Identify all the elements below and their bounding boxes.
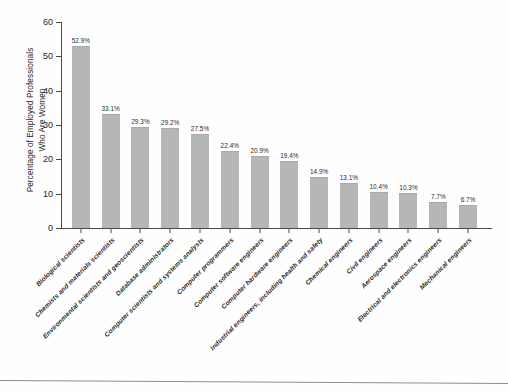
x-tick-mark (378, 228, 379, 233)
bar-slot: 10.3%Aerospace engineers (394, 22, 424, 228)
bar[interactable] (191, 134, 209, 228)
bar-slot: 22.4%Computer programmers (215, 22, 245, 228)
x-category-label: Biological scientists (34, 236, 86, 288)
bar[interactable] (131, 127, 149, 228)
y-tick-label: 60 (43, 17, 53, 27)
bar[interactable] (72, 46, 90, 228)
bar-slot: 6.7%Mechanical engineers (453, 22, 483, 228)
x-tick-mark (438, 228, 439, 233)
bar[interactable] (161, 128, 179, 228)
bar-value-label: 7.7% (431, 193, 446, 200)
bar-slot: 27.5%Computer scientists and systems ana… (185, 22, 215, 228)
x-tick-mark (468, 228, 469, 233)
bar[interactable] (310, 177, 328, 228)
x-category-label: Aerospace engineers (360, 236, 413, 289)
x-category-label: Computer programmers (175, 236, 235, 296)
bar-slot: 52.9%Biological scientists (66, 22, 96, 228)
bar[interactable] (221, 151, 239, 228)
bar[interactable] (280, 161, 298, 228)
bar-slot: 10.4%Civil engineers (364, 22, 394, 228)
bar[interactable] (429, 202, 447, 228)
bar-value-label: 20.9% (250, 147, 268, 154)
bar-slot: 19.4%Computer hardware engineers (274, 22, 304, 228)
bar[interactable] (399, 193, 417, 228)
x-tick-mark (229, 228, 230, 233)
bar-slot: 20.9%Computer software engineers (245, 22, 275, 228)
bar-slot: 29.2%Database administrators (155, 22, 185, 228)
x-tick-mark (348, 228, 349, 233)
y-tick-label: 0 (48, 223, 53, 233)
x-category-label: Database administrators (114, 236, 175, 297)
y-tick-label: 40 (43, 86, 53, 96)
y-tick-label: 50 (43, 51, 53, 61)
bar[interactable] (340, 183, 358, 228)
x-tick-mark (200, 228, 201, 233)
bar-value-label: 33.1% (101, 105, 119, 112)
x-tick-mark (170, 228, 171, 233)
x-tick-mark (110, 228, 111, 233)
bar-group: 52.9%Biological scientists33.1%Chemists … (62, 22, 486, 228)
bar-slot: 7.7%Electrical and electronics engineers (423, 22, 453, 228)
y-tick-label: 20 (43, 154, 53, 164)
bar-value-label: 22.4% (221, 142, 239, 149)
y-tick-label: 30 (43, 120, 53, 130)
bar-value-label: 10.3% (399, 184, 417, 191)
bar-value-label: 13.1% (340, 174, 358, 181)
bar[interactable] (251, 156, 269, 228)
bar-value-label: 19.4% (280, 152, 298, 159)
x-tick-mark (140, 228, 141, 233)
bar-value-label: 29.2% (161, 119, 179, 126)
x-tick-mark (408, 228, 409, 233)
x-tick-mark (289, 228, 290, 233)
bar-value-label: 27.5% (191, 125, 209, 132)
bar-slot: 33.1%Chemists and materials scientists (96, 22, 126, 228)
x-tick-mark (319, 228, 320, 233)
y-tick-label: 10 (43, 189, 53, 199)
x-category-label: Industrial engineers, including health a… (209, 236, 324, 351)
bar-value-label: 10.4% (370, 183, 388, 190)
x-tick-mark (80, 228, 81, 233)
bar-slot: 14.9%Industrial engineers, including hea… (304, 22, 334, 228)
bar-value-label: 14.9% (310, 168, 328, 175)
bar-slot: 13.1%Chemical engineers (334, 22, 364, 228)
bar-value-label: 29.3% (131, 118, 149, 125)
bar[interactable] (459, 205, 477, 228)
plot-area: 0102030405060 52.9%Biological scientists… (62, 22, 486, 228)
bar[interactable] (370, 192, 388, 228)
bar-slot: 29.3%Environmental scientists and geosci… (126, 22, 156, 228)
bar-value-label: 52.9% (72, 37, 90, 44)
x-category-label: Mechanical engineers (418, 236, 473, 291)
bar-value-label: 6.7% (461, 196, 476, 203)
bar[interactable] (102, 114, 120, 228)
y-tick-mark (56, 228, 62, 229)
x-tick-mark (259, 228, 260, 233)
page-background: Percentage of Employed Professionals Who… (0, 0, 508, 391)
bar-chart: Percentage of Employed Professionals Who… (0, 0, 508, 391)
